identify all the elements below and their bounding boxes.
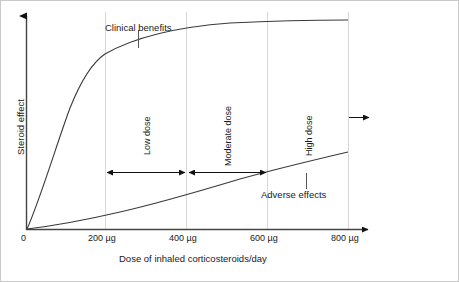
x-tick-label-200: 200 µg (88, 234, 116, 243)
x-tick-label-800: 800 µg (331, 234, 359, 243)
clinical-benefits-label: Clinical benefits (105, 23, 172, 33)
x-axis-title: Dose of inhaled corticosteroids/day (119, 254, 267, 264)
x-tick-label-0: 0 (21, 234, 26, 243)
high-dose-band-label: High dose (305, 115, 314, 156)
x-tick-label-400: 400 µg (169, 234, 197, 243)
low-dose-band-label: Low dose (143, 116, 152, 155)
adverse-effects-label: Adverse effects (261, 190, 326, 200)
moderate-dose-band-label: Moderate dose (224, 106, 233, 166)
y-axis-title: Steroid effect (16, 99, 26, 155)
chart-figure: Steroid effect 0 200 µg 400 µg 600 µg 80… (0, 0, 459, 282)
x-tick-label-600: 600 µg (250, 234, 278, 243)
